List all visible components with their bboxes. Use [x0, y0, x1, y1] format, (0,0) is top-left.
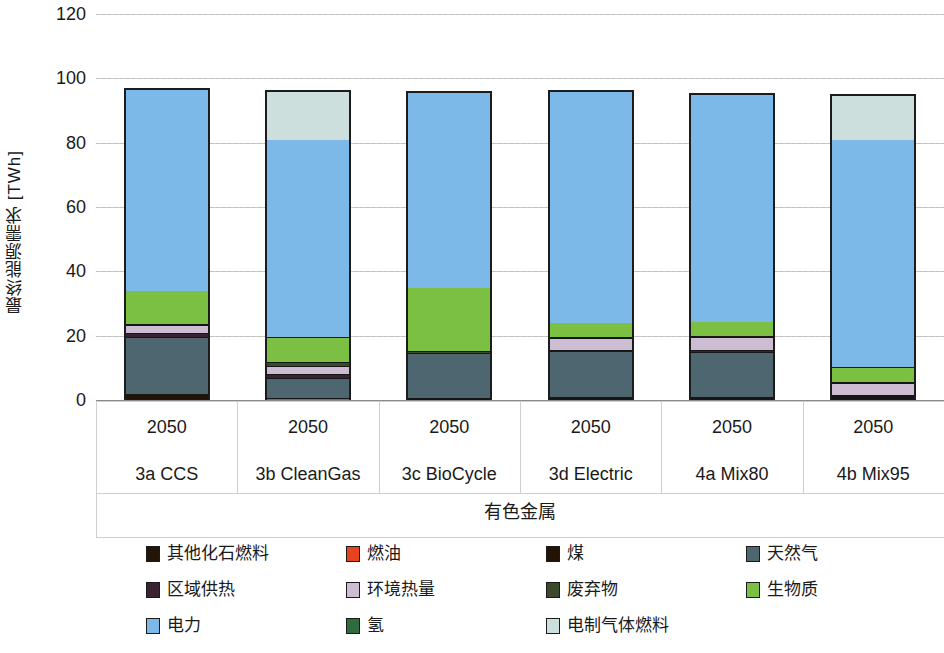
bar-segment-天然气 — [691, 353, 773, 398]
y-tick-0: 0 — [76, 390, 86, 411]
legend-swatch-icon — [746, 582, 760, 598]
x-axis-rule-1 — [96, 493, 944, 494]
x-tick-year: 2050 — [803, 417, 944, 438]
bar-segment-生物质 — [550, 323, 632, 337]
x-axis-cell-3d-electric: 20503d Electric — [520, 401, 661, 493]
x-axis-cell-separator — [520, 401, 521, 493]
legend-swatch-icon — [346, 546, 360, 562]
y-tick-20: 20 — [66, 325, 86, 346]
x-axis-cell-4b-mix95: 20504b Mix95 — [803, 401, 944, 493]
legend-label: 煤 — [567, 545, 584, 562]
gridline-20 — [96, 336, 944, 337]
x-axis-cell-3b-cleangas: 20503b CleanGas — [237, 401, 378, 493]
y-tick-40: 40 — [66, 261, 86, 282]
x-tick-year: 2050 — [661, 417, 802, 438]
legend-item-电制气体燃料[interactable]: 电制气体燃料 — [546, 617, 669, 634]
legend-item-电力[interactable]: 电力 — [146, 617, 201, 634]
legend-label: 天然气 — [767, 545, 818, 562]
bar-segment-电力 — [550, 92, 632, 324]
legend-label: 电制气体燃料 — [567, 617, 669, 634]
x-axis-cell-4a-mix80: 20504a Mix80 — [661, 401, 802, 493]
y-tick-100: 100 — [56, 68, 86, 89]
x-axis: 有色金属 20503a CCS20503b CleanGas20503c Bio… — [96, 401, 944, 537]
bar-4a-mix80 — [689, 93, 775, 400]
legend-swatch-icon — [346, 618, 360, 634]
bar-segment-其他化石燃料 — [832, 399, 914, 400]
x-axis-cell-separator — [237, 401, 238, 493]
gridline-100 — [96, 78, 944, 79]
x-tick-scenario: 3b CleanGas — [237, 464, 378, 485]
legend-label: 电力 — [167, 617, 201, 634]
legend-item-环境热量[interactable]: 环境热量 — [346, 581, 435, 598]
legend-swatch-icon — [546, 582, 560, 598]
bar-segment-生物质 — [832, 368, 914, 382]
bar-segment-电制气体燃料 — [832, 96, 914, 139]
y-tick-80: 80 — [66, 132, 86, 153]
bar-segment-生物质 — [126, 291, 208, 325]
bar-4b-mix95 — [830, 94, 916, 400]
bar-segment-燃油 — [267, 399, 349, 400]
chart-figure: 最终能源需求 [TWh] 020406080100120 有色金属 20503a… — [0, 0, 944, 653]
bar-segment-电力 — [832, 140, 914, 368]
bar-segment-环境热量 — [691, 338, 773, 351]
bar-segment-天然气 — [126, 338, 208, 395]
legend-item-生物质[interactable]: 生物质 — [746, 581, 818, 598]
bar-segment-其他化石燃料 — [126, 398, 208, 400]
bar-segment-天然气 — [267, 379, 349, 398]
legend-item-其他化石燃料[interactable]: 其他化石燃料 — [146, 545, 269, 562]
bar-segment-环境热量 — [267, 367, 349, 375]
y-tick-60: 60 — [66, 197, 86, 218]
legend-swatch-icon — [146, 582, 160, 598]
x-axis-cell-separator — [661, 401, 662, 493]
x-axis-group-label: 有色金属 — [96, 497, 944, 523]
legend-item-废弃物[interactable]: 废弃物 — [546, 581, 618, 598]
legend-label: 燃油 — [367, 545, 401, 562]
x-axis-cell-separator — [803, 401, 804, 493]
y-axis-label: 最终能源需求 [TWh] — [2, 150, 32, 314]
bar-segment-生物质 — [267, 338, 349, 364]
gridline-120 — [96, 14, 944, 15]
legend-item-天然气[interactable]: 天然气 — [746, 545, 818, 562]
x-axis-cell-separator — [379, 401, 380, 493]
legend-item-煤[interactable]: 煤 — [546, 545, 584, 562]
legend-label: 环境热量 — [367, 581, 435, 598]
legend-item-氢[interactable]: 氢 — [346, 617, 384, 634]
gridline-40 — [96, 271, 944, 272]
legend-label: 废弃物 — [567, 581, 618, 598]
legend-swatch-icon — [746, 546, 760, 562]
x-axis-rule-0 — [96, 401, 944, 402]
bar-3b-cleangas — [265, 90, 351, 400]
legend-item-区域供热[interactable]: 区域供热 — [146, 581, 235, 598]
gridline-60 — [96, 207, 944, 208]
bar-segment-生物质 — [408, 288, 490, 352]
x-tick-year: 2050 — [96, 417, 237, 438]
x-tick-scenario: 4b Mix95 — [803, 464, 944, 485]
bar-segment-天然气 — [408, 354, 490, 399]
bar-segment-电力 — [126, 90, 208, 291]
bar-segment-其他化石燃料 — [550, 399, 632, 400]
x-tick-year: 2050 — [520, 417, 661, 438]
x-tick-year: 2050 — [237, 417, 378, 438]
legend-swatch-icon — [146, 546, 160, 562]
legend-swatch-icon — [546, 618, 560, 634]
y-axis-tick-labels: 020406080100120 — [30, 0, 92, 420]
gridline-80 — [96, 143, 944, 144]
bar-segment-电力 — [408, 93, 490, 288]
legend-swatch-icon — [346, 582, 360, 598]
legend-swatch-icon — [146, 618, 160, 634]
bar-segment-煤 — [408, 399, 490, 400]
bar-segment-电力 — [691, 95, 773, 322]
bar-3a-ccs — [124, 88, 210, 400]
x-axis-rule-2 — [96, 537, 944, 538]
legend-label: 氢 — [367, 617, 384, 634]
legend: 其他化石燃料燃油煤天然气区域供热环境热量废弃物生物质电力氢电制气体燃料 — [96, 545, 944, 653]
legend-item-燃油[interactable]: 燃油 — [346, 545, 401, 562]
x-axis-cell-3c-biocycle: 20503c BioCycle — [379, 401, 520, 493]
bar-3d-electric — [548, 90, 634, 400]
x-tick-year: 2050 — [379, 417, 520, 438]
bar-segment-环境热量 — [126, 326, 208, 334]
bar-segment-电力 — [267, 140, 349, 338]
x-tick-scenario: 3d Electric — [520, 464, 661, 485]
legend-label: 区域供热 — [167, 581, 235, 598]
x-tick-scenario: 4a Mix80 — [661, 464, 802, 485]
